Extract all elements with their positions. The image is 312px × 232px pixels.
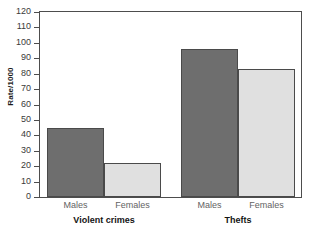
bar-violent-crimes-females bbox=[104, 163, 161, 197]
y-axis-tick-label: 10 bbox=[21, 176, 31, 187]
x-axis-group-label: Violent crimes bbox=[47, 215, 161, 225]
x-axis-group-labels: Violent crimesThefts bbox=[40, 215, 301, 229]
y-axis-tick-label: 100 bbox=[16, 37, 31, 48]
y-axis-tick-label: 80 bbox=[21, 68, 31, 79]
bar-chart: Rate/1000 0102030405060708090100110120 M… bbox=[0, 0, 312, 232]
y-axis: 0102030405060708090100110120 bbox=[0, 0, 39, 232]
bar-violent-crimes-males bbox=[47, 128, 104, 197]
x-axis-category-labels: MalesFemalesMalesFemales bbox=[40, 200, 301, 214]
y-axis-tick-label: 40 bbox=[21, 129, 31, 140]
y-axis-tick-label: 90 bbox=[21, 52, 31, 63]
y-axis-tick-label: 110 bbox=[17, 21, 31, 32]
y-axis-tick-label: 120 bbox=[16, 6, 31, 17]
x-axis-category-label: Males bbox=[47, 200, 104, 210]
y-axis-tick-label: 30 bbox=[21, 145, 31, 156]
y-axis-tick-label: 70 bbox=[21, 83, 31, 94]
bar-thefts-females bbox=[238, 69, 295, 197]
x-axis-category-label: Females bbox=[104, 200, 161, 210]
y-axis-tick-label: 20 bbox=[21, 160, 31, 171]
bar-thefts-males bbox=[181, 49, 238, 197]
y-axis-tick-label: 0 bbox=[26, 191, 31, 202]
y-axis-tick-label: 50 bbox=[21, 114, 31, 125]
bars-layer bbox=[40, 12, 301, 197]
x-axis-category-label: Males bbox=[181, 200, 238, 210]
y-axis-tick-label: 60 bbox=[21, 99, 31, 110]
x-axis-group-label: Thefts bbox=[181, 215, 295, 225]
x-axis-category-label: Females bbox=[238, 200, 295, 210]
